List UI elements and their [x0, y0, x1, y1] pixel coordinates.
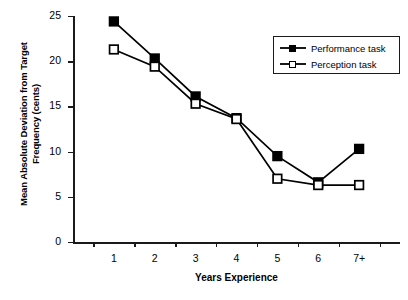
legend-label-perception-task: Perception task — [311, 59, 376, 70]
x-axis-title: Years Experience — [73, 272, 400, 283]
caption-sliver — [8, 292, 400, 300]
data-point-1-5 — [273, 152, 282, 161]
x-tick-label-1: 1 — [94, 252, 134, 264]
x-tick-label-5: 5 — [257, 252, 297, 264]
y-tick-label-5: 5 — [31, 190, 61, 202]
data-point-2-7+ — [355, 181, 364, 190]
x-tick-label-4: 4 — [217, 252, 257, 264]
data-point-2-2 — [150, 62, 159, 71]
data-point-1-7+ — [355, 145, 364, 154]
data-point-2-1 — [110, 45, 119, 54]
x-tick-label-2: 2 — [135, 252, 175, 264]
legend-marker-filled-square-icon — [280, 41, 306, 55]
legend-item-perception-task: Perception task — [280, 56, 399, 72]
legend-label-performance-task: Performance task — [311, 43, 385, 54]
legend-marker-open-square-icon — [280, 57, 306, 71]
y-tick-label-20: 20 — [31, 54, 61, 66]
data-point-1-1 — [110, 17, 119, 26]
legend-item-performance-task: Performance task — [280, 40, 399, 56]
x-tick-label-7+: 7+ — [339, 252, 379, 264]
y-axis-title-line-2: Frequency (cents) — [30, 0, 42, 249]
x-tick-label-3: 3 — [176, 252, 216, 264]
y-axis-title-line-1: Mean Absolute Deviation from Target — [18, 0, 30, 249]
y-tick-label-25: 25 — [31, 9, 61, 21]
y-tick-label-10: 10 — [31, 145, 61, 157]
data-point-2-4 — [232, 115, 241, 124]
data-point-2-6 — [314, 181, 323, 190]
chart-legend: Performance task Perception task — [273, 36, 400, 74]
data-point-2-3 — [191, 99, 200, 108]
y-axis-title: Mean Absolute Deviation from Target Freq… — [18, 0, 42, 249]
y-tick-label-0: 0 — [31, 235, 61, 247]
x-tick-label-6: 6 — [298, 252, 338, 264]
figure-container: Mean Absolute Deviation from Target Freq… — [0, 0, 408, 300]
data-point-2-5 — [273, 174, 282, 183]
y-tick-label-15: 15 — [31, 99, 61, 111]
